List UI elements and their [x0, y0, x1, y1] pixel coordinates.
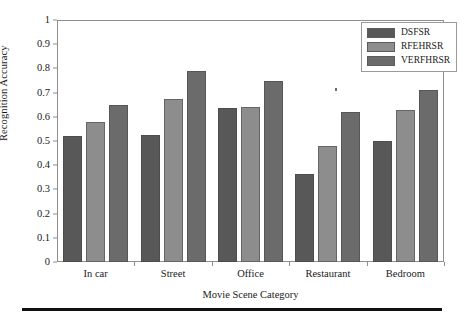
- bar: [187, 71, 206, 262]
- bar: [241, 107, 260, 262]
- bar: [396, 110, 415, 262]
- bar: [63, 136, 82, 262]
- bottom-horizontal-rule: [22, 308, 442, 311]
- x-category-label: Restaurant: [305, 268, 350, 279]
- bar: [373, 141, 392, 262]
- y-axis-label: Recognition Accuracy: [0, 45, 9, 141]
- y-tick-label: 0: [45, 257, 57, 268]
- bar: [164, 99, 183, 262]
- bar: [264, 81, 283, 263]
- x-category-label: In car: [84, 268, 108, 279]
- legend-swatch-icon: [367, 56, 395, 66]
- legend-label: VERFHRSR: [401, 56, 450, 66]
- x-axis-label: Movie Scene Category: [57, 289, 444, 300]
- x-tick-mark: [367, 262, 368, 266]
- bar: [141, 135, 160, 262]
- bar-chart-figure: 00.10.20.30.40.50.60.70.80.91 In carStre…: [0, 0, 464, 320]
- legend-item: DSFSR: [367, 27, 450, 39]
- legend-item: RFEHRSR: [367, 41, 450, 53]
- y-tick-label: 0.5: [37, 136, 57, 147]
- y-tick-label: 1: [45, 15, 57, 26]
- bar: [109, 105, 128, 262]
- y-tick-label: 0.8: [37, 63, 57, 74]
- y-tick-label: 0.7: [37, 87, 57, 98]
- y-tick-label: 0.2: [37, 208, 57, 219]
- bar: [341, 112, 360, 262]
- stray-speck-artifact: [335, 88, 337, 91]
- x-tick-mark: [212, 262, 213, 266]
- legend-swatch-icon: [367, 28, 395, 38]
- legend-item: VERFHRSR: [367, 55, 450, 67]
- legend-label: RFEHRSR: [401, 42, 443, 52]
- x-category-label: Bedroom: [386, 268, 425, 279]
- x-tick-mark: [444, 262, 445, 266]
- bar: [218, 108, 237, 262]
- x-tick-mark: [134, 262, 135, 266]
- y-tick-label: 0.9: [37, 39, 57, 50]
- bar: [419, 90, 438, 262]
- x-category-label: Street: [161, 268, 186, 279]
- y-tick-label: 0.6: [37, 112, 57, 123]
- legend: DSFSRRFEHRSRVERFHRSR: [361, 22, 457, 72]
- bar: [86, 122, 105, 262]
- bar: [318, 146, 337, 262]
- y-tick-label: 0.1: [37, 233, 57, 244]
- legend-swatch-icon: [367, 42, 395, 52]
- y-tick-label: 0.4: [37, 160, 57, 171]
- y-tick-label: 0.3: [37, 184, 57, 195]
- x-category-label: Office: [237, 268, 264, 279]
- legend-label: DSFSR: [401, 28, 430, 38]
- bar: [295, 174, 314, 262]
- x-tick-mark: [289, 262, 290, 266]
